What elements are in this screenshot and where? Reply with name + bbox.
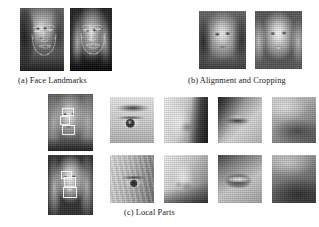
panel-c-caption: (c) Local Parts (124, 208, 175, 218)
part-chin-row2 (272, 155, 316, 203)
local-parts-source-top (48, 94, 93, 151)
part-mouth-row1 (218, 97, 262, 143)
part-chin-row1 (272, 97, 316, 143)
part-nose-row2 (164, 155, 208, 203)
local-parts-source-bottom (48, 155, 93, 215)
aligned-face-right (255, 11, 302, 69)
figure-root: (a) Face Landmarks (b) Alignment and Cro… (0, 0, 319, 227)
panel-b-caption: (b) Alignment and Cropping (188, 76, 286, 86)
part-eye-row2 (110, 155, 154, 203)
aligned-face-left (199, 11, 246, 69)
part-mouth-row2 (218, 155, 262, 203)
landmark-face-right (70, 8, 112, 71)
part-nose-row1 (164, 97, 208, 143)
landmark-face-left (20, 8, 64, 71)
part-eye-row1 (110, 97, 154, 143)
panel-a-caption: (a) Face Landmarks (18, 76, 87, 86)
